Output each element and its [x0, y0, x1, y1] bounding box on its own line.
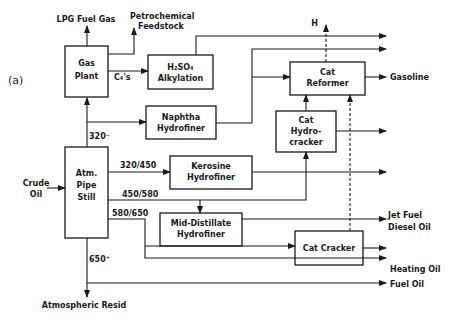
svg-text:Cat: Cat [298, 116, 313, 125]
svg-text:Cat: Cat [320, 68, 335, 77]
svg-text:Cat Cracker: Cat Cracker [303, 244, 355, 253]
svg-text:Naphtha: Naphtha [162, 113, 200, 122]
cat-cracker-box: Cat Cracker [295, 231, 363, 265]
panel-label: (a) [8, 74, 23, 87]
gasoline-stream: Gasoline [365, 73, 429, 82]
svg-text:Mid-Distillate: Mid-Distillate [171, 219, 232, 228]
svg-text:Petrochemical: Petrochemical [130, 12, 195, 21]
fuel-oil-label: Fuel Oil [390, 280, 424, 289]
atm-pipe-still-box: Atm. Pipe Still [65, 147, 108, 238]
svg-text:320/450: 320/450 [120, 161, 157, 170]
atmospheric-resid-label: Atmospheric Resid [42, 301, 127, 310]
cat-hydrocracker-box: Cat Hydro- cracker [276, 111, 336, 152]
petrochemical-feedstock-stream: Petrochemical Feedstock [108, 12, 195, 54]
svg-text:Hydrofiner: Hydrofiner [157, 124, 205, 133]
svg-text:Gasoline: Gasoline [390, 73, 429, 82]
svg-text:Pipe: Pipe [77, 181, 97, 190]
jet-fuel-diesel-stream: Jet Fuel Diesel Oil [242, 211, 431, 232]
hydrogen-stream: H [311, 19, 326, 62]
naphtha-hydrofiner-box: Naphtha Hydrofiner [146, 106, 216, 139]
svg-text:Alkylation: Alkylation [158, 74, 204, 83]
svg-text:Feedstock: Feedstock [138, 22, 185, 31]
crude-oil-stream: Crude Oil [23, 179, 65, 199]
gas-plant-box: Gas Plant [65, 46, 108, 97]
alkylation-box: H₂SO₄ Alkylation [148, 55, 213, 89]
svg-text:Atm.: Atm. [76, 169, 97, 178]
c4s-stream: C₄'s [108, 71, 148, 82]
svg-text:650⁺: 650⁺ [89, 255, 110, 264]
svg-text:cracker: cracker [289, 138, 322, 147]
mid-distillate-hydrofiner-box: Mid-Distillate Hydrofiner [160, 213, 242, 246]
svg-text:Hydrofiner: Hydrofiner [187, 173, 235, 182]
svg-text:Diesel Oil: Diesel Oil [388, 223, 431, 232]
svg-text:H₂SO₄: H₂SO₄ [167, 63, 194, 72]
refinery-flow-diagram: (a) Gas Plant H₂SO₄ Alkylation Naphtha H… [0, 0, 452, 321]
svg-text:Crude: Crude [23, 179, 50, 188]
heating-oil-label: Heating Oil [390, 265, 441, 274]
svg-text:Oil: Oil [30, 190, 43, 199]
svg-text:580/650: 580/650 [112, 209, 149, 218]
svg-text:Hydro-: Hydro- [291, 127, 321, 136]
svg-text:H: H [311, 19, 318, 28]
cat-reformer-box: Cat Reformer [290, 62, 365, 95]
lpg-fuel-gas-stream: LPG Fuel Gas [57, 15, 116, 46]
alkylate-stream [196, 36, 386, 55]
svg-text:Still: Still [78, 193, 96, 202]
svg-text:Kerosine: Kerosine [191, 162, 231, 171]
svg-text:Jet Fuel: Jet Fuel [387, 211, 422, 220]
svg-text:320⁻: 320⁻ [89, 132, 110, 141]
cut-320-stream: 320⁻ [87, 98, 146, 147]
cut-650-stream: 650⁺ Fuel Oil Atmospheric Resid [42, 238, 425, 310]
svg-text:Plant: Plant [75, 72, 99, 81]
kerosine-hydrofiner-box: Kerosine Hydrofiner [170, 156, 252, 189]
cut-320-450-stream: 320/450 [108, 161, 170, 172]
svg-text:Gas: Gas [78, 59, 95, 68]
svg-text:Reformer: Reformer [306, 79, 348, 88]
svg-text:C₄'s: C₄'s [114, 73, 131, 82]
svg-text:450/580: 450/580 [122, 190, 159, 199]
svg-text:LPG Fuel Gas: LPG Fuel Gas [57, 15, 116, 24]
svg-text:Hydrofiner: Hydrofiner [177, 230, 225, 239]
